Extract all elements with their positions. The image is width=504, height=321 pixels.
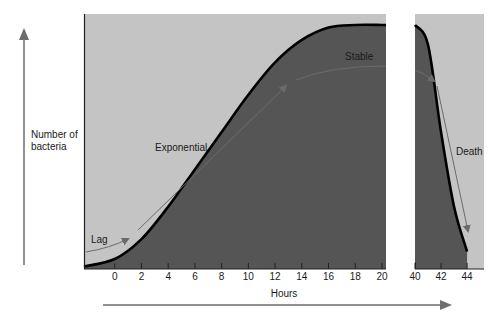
phase-label-lag: Lag	[91, 234, 108, 245]
x-tick-label: 4	[165, 271, 171, 282]
y-axis-label-line1: Number of	[31, 129, 78, 140]
x-tick-label: 2	[139, 271, 145, 282]
x-tick-label: 44	[462, 271, 474, 282]
y-axis-label-line2: bacteria	[31, 141, 67, 152]
x-tick-label: 6	[192, 271, 198, 282]
x-tick-label: 10	[243, 271, 255, 282]
phase-label-exponential: Exponential	[155, 142, 207, 153]
x-tick-label: 12	[270, 271, 282, 282]
x-tick-label: 14	[296, 271, 308, 282]
x-axis-label: Hours	[271, 288, 298, 299]
x-tick-label: 8	[219, 271, 225, 282]
x-tick-label: 40	[409, 271, 421, 282]
phase-label-death: Death	[456, 146, 483, 157]
bacterial-growth-chart: 02468101214161820404244 Lag Exponential …	[0, 0, 504, 321]
x-tick-label: 16	[323, 271, 335, 282]
x-tick-label: 0	[112, 271, 118, 282]
x-tick-label: 42	[435, 271, 447, 282]
x-tick-label: 20	[376, 271, 388, 282]
x-tick-label: 18	[350, 271, 362, 282]
phase-label-stable: Stable	[345, 51, 374, 62]
